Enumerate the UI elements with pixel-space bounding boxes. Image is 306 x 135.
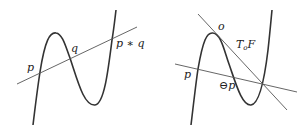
label-o: o — [218, 20, 225, 33]
label-tangent-ToF: ToF — [236, 38, 256, 52]
label-p-left: p — [27, 61, 34, 74]
label-neg-p: ⊖p — [219, 79, 235, 92]
label-p-right: p — [184, 68, 191, 81]
diagram-canvas: p q p ∗ q o ToF p ⊖p — [0, 0, 306, 135]
secant-line-right — [175, 64, 297, 92]
label-F: F — [247, 38, 256, 51]
tangent-line — [198, 14, 287, 110]
label-p-star-q: p ∗ q — [116, 37, 145, 50]
figure-point-addition: p q p ∗ q — [17, 10, 145, 125]
secant-line-left — [17, 27, 137, 84]
figure-tangent-negation: o ToF p ⊖p — [175, 10, 297, 125]
cubic-curve-right — [191, 10, 272, 125]
label-q: q — [71, 42, 78, 55]
cubic-curve-left — [33, 10, 116, 125]
